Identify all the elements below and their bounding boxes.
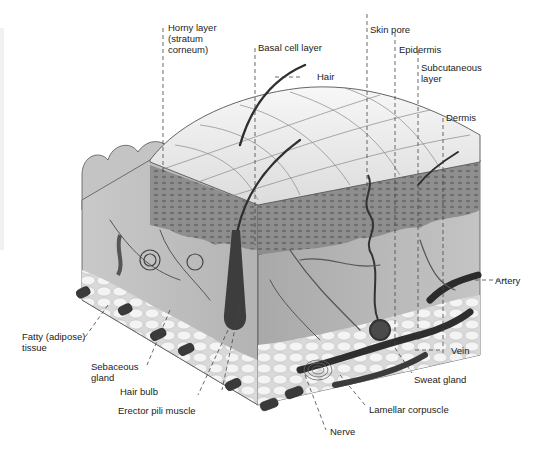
label-vein: Vein [451, 345, 470, 356]
label-skin-pore: Skin pore [370, 24, 410, 35]
skin-diagram: Horny layer (stratum corneum) Basal cell… [0, 0, 537, 464]
label-erector-pili-muscle: Erector pili muscle [118, 405, 196, 416]
label-sebaceous-gland: Sebaceous gland [91, 361, 139, 383]
label-artery: Artery [495, 275, 520, 286]
label-basal-cell-layer: Basal cell layer [258, 42, 322, 53]
label-sweat-gland: Sweat gland [414, 374, 466, 385]
label-horny-layer: Horny layer (stratum corneum) [168, 22, 217, 55]
label-nerve: Nerve [330, 426, 355, 437]
label-fatty-tissue: Fatty (adipose) tissue [22, 331, 85, 353]
label-hair-bulb: Hair bulb [120, 386, 158, 397]
label-epidermis: Epidermis [399, 44, 441, 55]
label-lamellar-corpuscle: Lamellar corpuscle [369, 404, 449, 415]
label-hair: Hair [317, 71, 334, 82]
label-subcutaneous-layer: Subcutaneous layer [421, 62, 482, 84]
label-dermis: Dermis [446, 112, 476, 123]
